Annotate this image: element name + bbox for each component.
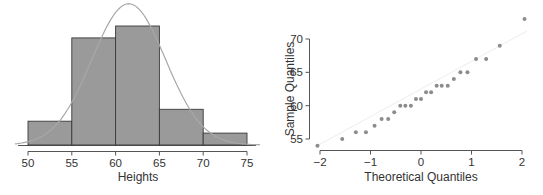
x-tick-label: 50 — [22, 157, 35, 169]
qq-point — [409, 104, 413, 108]
qq-points — [315, 17, 526, 148]
qq-point — [315, 144, 319, 148]
x-tick-label: 75 — [241, 157, 254, 169]
qq-point — [440, 84, 444, 88]
qq-y-label: Sample Quantiles — [283, 42, 297, 137]
histogram-bars — [28, 26, 247, 145]
qq-point — [354, 130, 358, 134]
histogram-x-ticks: 505560657075 — [22, 152, 254, 170]
qq-point — [435, 84, 439, 88]
qq-plot-chart: 55606570 −2−1012 Theoretical Quantiles S… — [283, 17, 527, 184]
histogram-bar — [159, 109, 203, 145]
qq-x-ticks: −2−1012 — [313, 151, 525, 169]
qq-x-label: Theoretical Quantiles — [364, 170, 477, 184]
x-tick-label: −2 — [313, 156, 326, 168]
qq-point — [465, 70, 469, 74]
qq-point — [446, 84, 450, 88]
qq-point — [386, 117, 390, 121]
histogram-bar — [28, 121, 72, 145]
qq-point — [414, 97, 418, 101]
figure: 505560657075 Heights 55606570 −2−1012 Th… — [0, 0, 543, 195]
qq-point — [392, 110, 396, 114]
x-tick-label: 1 — [468, 156, 474, 168]
qq-point — [474, 57, 478, 61]
qq-point — [373, 124, 377, 128]
x-tick-label: −1 — [364, 156, 377, 168]
x-tick-label: 0 — [418, 156, 424, 168]
qq-point — [429, 90, 433, 94]
x-tick-label: 70 — [197, 157, 210, 169]
qq-point — [419, 97, 423, 101]
x-tick-label: 55 — [65, 157, 78, 169]
qq-point — [340, 137, 344, 141]
qq-point — [380, 117, 384, 121]
qq-reference-line — [315, 31, 527, 147]
qq-point — [484, 57, 488, 61]
histogram-bar — [116, 26, 160, 145]
qq-point — [452, 77, 456, 81]
x-tick-label: 60 — [109, 157, 122, 169]
x-tick-label: 65 — [153, 157, 166, 169]
qq-point — [364, 130, 368, 134]
qq-point — [403, 104, 407, 108]
x-tick-label: 2 — [519, 156, 525, 168]
qq-point — [398, 104, 402, 108]
qq-point — [424, 90, 428, 94]
qq-point — [498, 44, 502, 48]
histogram-chart: 505560657075 Heights — [15, 4, 260, 184]
qq-point — [458, 70, 462, 74]
qq-point — [523, 17, 527, 21]
histogram-x-label: Heights — [118, 170, 159, 184]
